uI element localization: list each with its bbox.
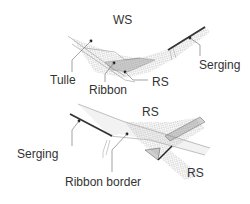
- label-ws: WS: [113, 14, 132, 26]
- label-ribbon: Ribbon: [89, 84, 127, 96]
- sewing-diagram: [0, 0, 250, 204]
- label-rs-upper: RS: [142, 106, 159, 118]
- label-tulle: Tulle: [50, 74, 76, 86]
- label-rs-top-figure: RS: [152, 76, 169, 88]
- label-serging-bottom: Serging: [17, 148, 58, 160]
- label-serging-top: Serging: [199, 59, 240, 71]
- top-illustration: [68, 26, 210, 82]
- label-rs-lower: RS: [187, 167, 204, 179]
- label-ribbon-border: Ribbon border: [65, 176, 141, 188]
